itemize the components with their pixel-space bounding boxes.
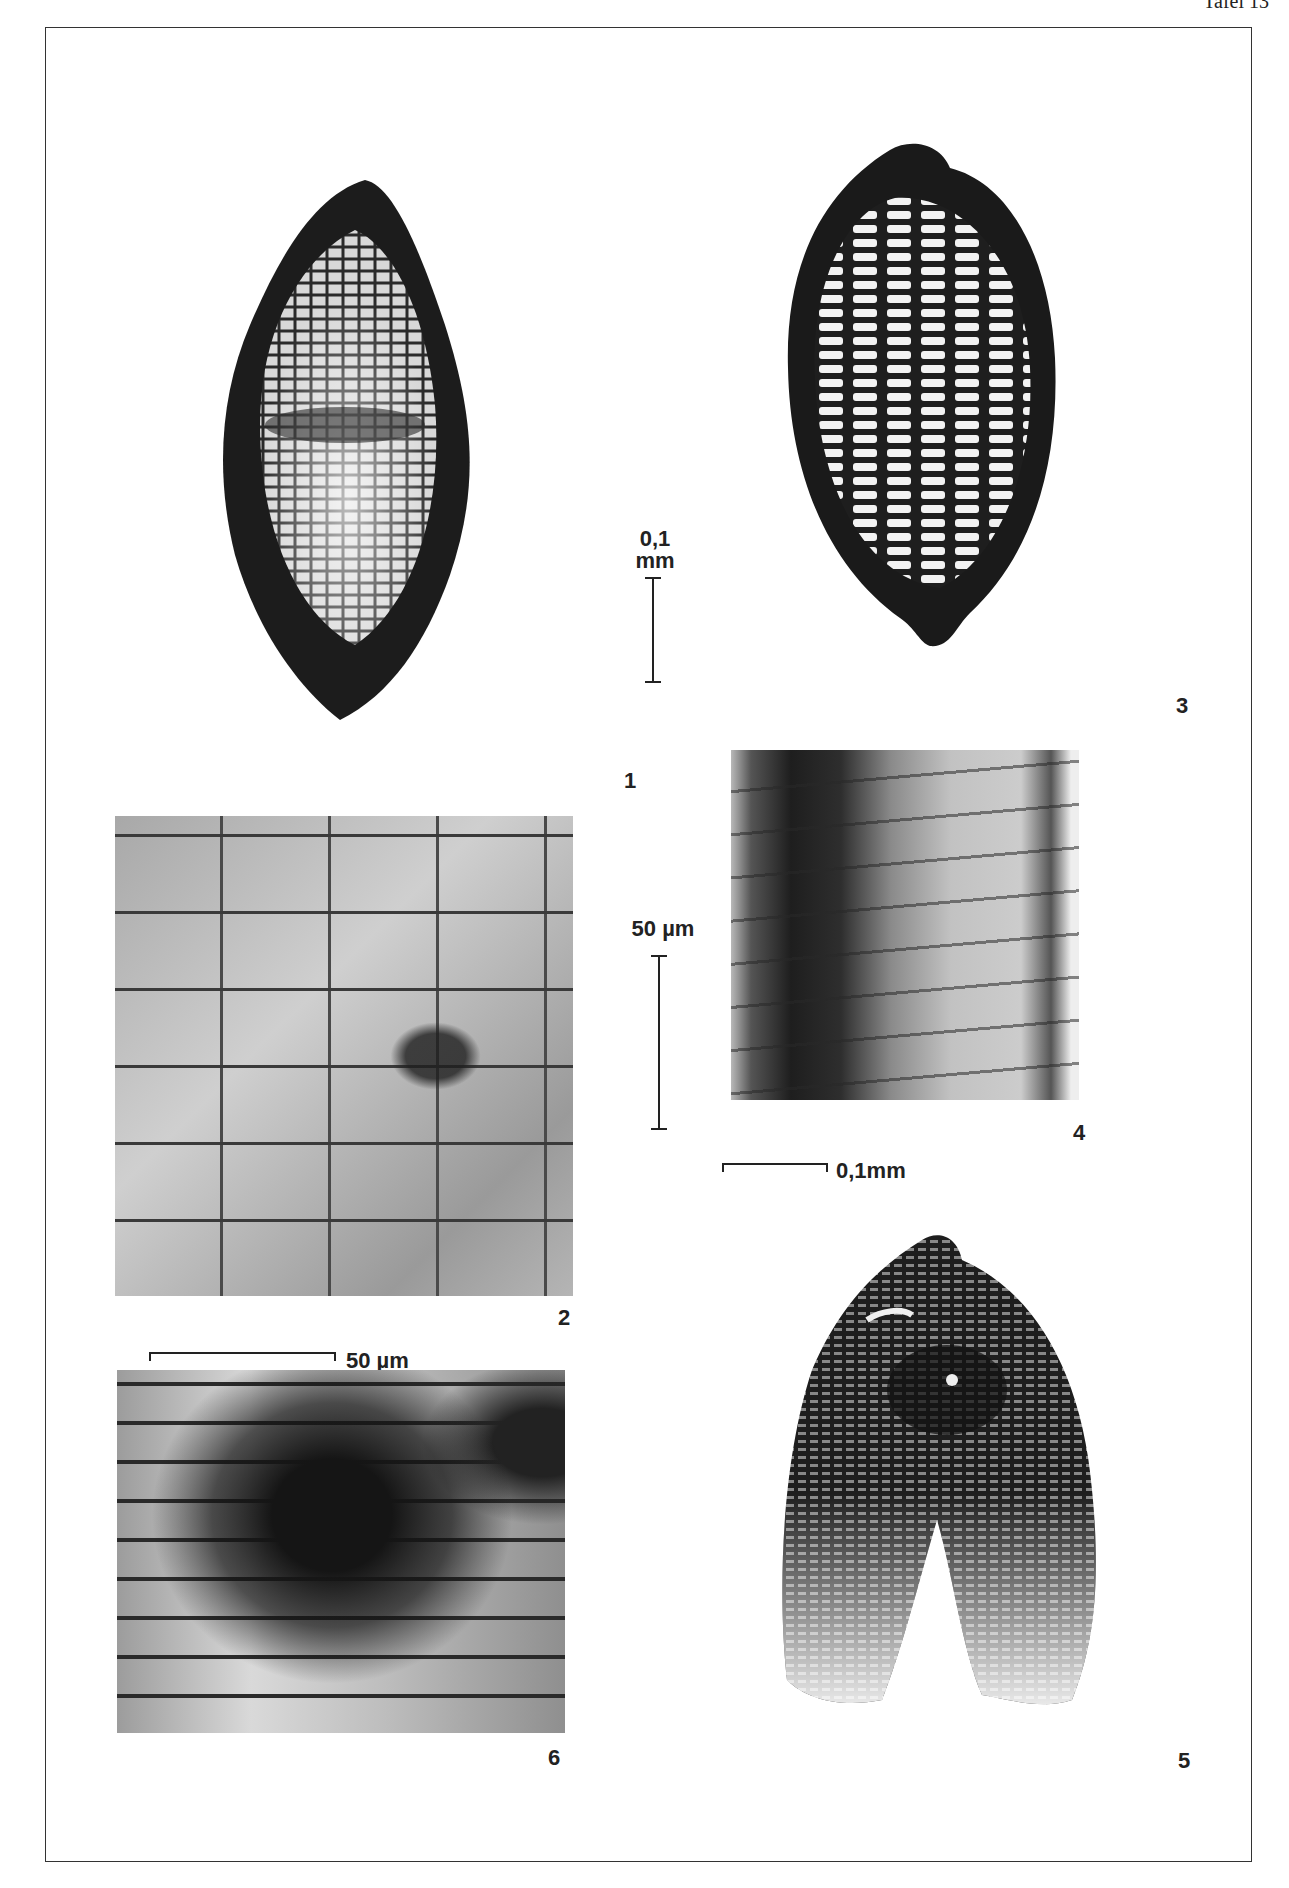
figure-4-micrograph: [731, 750, 1079, 1100]
figure-5-seed-image: [772, 1230, 1104, 1715]
scale-bar-label-fig4: 0,1mm: [836, 1160, 906, 1182]
figure-4-label: 4: [1073, 1120, 1085, 1146]
scale-bar-horizontal-fig4: [722, 1163, 828, 1165]
figure-5-label: 5: [1178, 1748, 1190, 1774]
scale-bar-label-fig2: 50 µm: [618, 918, 708, 940]
scale-bar-label-fig1-3: 0,1 mm: [625, 528, 685, 572]
figure-1-label: 1: [624, 768, 636, 794]
scale-bar-horizontal-fig6: [149, 1352, 336, 1354]
figure-2-label: 2: [558, 1305, 570, 1331]
figure-6-label: 6: [548, 1745, 560, 1771]
scale-value: 0,1: [625, 528, 685, 550]
figure-3-seed-image: [780, 138, 1062, 650]
scale-bar-vertical-fig2: [658, 955, 660, 1130]
scale-bar-vertical-fig1-3: [652, 577, 654, 683]
figure-6-micrograph: [117, 1370, 565, 1733]
scale-unit: mm: [625, 550, 685, 572]
plate-header: Tafel 13: [1203, 0, 1269, 13]
scale-bar-label-fig6: 50 µm: [346, 1350, 409, 1372]
figure-2-micrograph: [115, 816, 573, 1296]
figure-3-label: 3: [1176, 693, 1188, 719]
figure-1-seed-image: [215, 175, 477, 723]
